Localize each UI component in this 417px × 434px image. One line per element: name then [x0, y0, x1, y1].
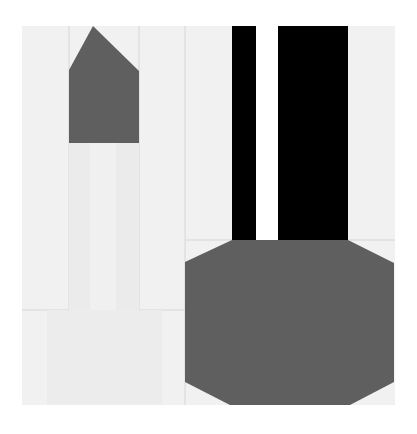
- abstract-shapes-diagram: [0, 0, 417, 434]
- stem-band: [90, 143, 116, 310]
- figure-canvas: [0, 0, 417, 434]
- black-bar-right: [278, 26, 348, 240]
- base: [47, 310, 162, 405]
- white-gap: [256, 26, 278, 240]
- octagon: [185, 240, 394, 405]
- black-bar-left: [232, 26, 256, 240]
